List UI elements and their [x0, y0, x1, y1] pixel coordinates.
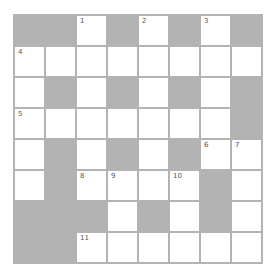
block-cell [170, 78, 199, 107]
answer-cell[interactable] [108, 233, 137, 262]
answer-cell[interactable] [201, 47, 230, 76]
answer-cell[interactable] [139, 171, 168, 200]
answer-cell[interactable] [15, 171, 44, 200]
answer-cell[interactable]: 6 [201, 140, 230, 169]
block-cell [108, 16, 137, 45]
block-cell [46, 140, 75, 169]
crossword-grid: 1234567891011 [13, 14, 263, 264]
answer-cell[interactable]: 7 [232, 140, 261, 169]
block-cell [46, 171, 75, 200]
block-cell [139, 202, 168, 231]
answer-cell[interactable] [201, 233, 230, 262]
answer-cell[interactable] [139, 233, 168, 262]
answer-cell[interactable] [232, 171, 261, 200]
answer-cell[interactable]: 11 [77, 233, 106, 262]
clue-number: 1 [80, 18, 84, 25]
answer-cell[interactable] [232, 233, 261, 262]
block-cell [15, 202, 44, 231]
answer-cell[interactable] [170, 202, 199, 231]
answer-cell[interactable] [77, 140, 106, 169]
clue-number: 2 [142, 18, 146, 25]
block-cell [46, 16, 75, 45]
clue-number: 8 [80, 173, 84, 180]
answer-cell[interactable] [170, 109, 199, 138]
answer-cell[interactable] [139, 109, 168, 138]
block-cell [170, 140, 199, 169]
clue-number: 9 [111, 173, 115, 180]
block-cell [108, 78, 137, 107]
block-cell [201, 171, 230, 200]
clue-number: 4 [18, 49, 22, 56]
answer-cell[interactable] [108, 47, 137, 76]
answer-cell[interactable] [15, 140, 44, 169]
answer-cell[interactable] [201, 109, 230, 138]
answer-cell[interactable] [108, 109, 137, 138]
answer-cell[interactable]: 10 [170, 171, 199, 200]
answer-cell[interactable] [46, 109, 75, 138]
answer-cell[interactable] [77, 47, 106, 76]
block-cell [108, 140, 137, 169]
answer-cell[interactable]: 1 [77, 16, 106, 45]
answer-cell[interactable]: 4 [15, 47, 44, 76]
block-cell [170, 16, 199, 45]
block-cell [232, 78, 261, 107]
answer-cell[interactable] [77, 109, 106, 138]
answer-cell[interactable] [108, 202, 137, 231]
answer-cell[interactable] [201, 78, 230, 107]
answer-cell[interactable] [232, 202, 261, 231]
answer-cell[interactable] [15, 78, 44, 107]
answer-cell[interactable]: 5 [15, 109, 44, 138]
answer-cell[interactable] [170, 233, 199, 262]
block-cell [15, 233, 44, 262]
block-cell [46, 202, 75, 231]
answer-cell[interactable] [46, 47, 75, 76]
answer-cell[interactable] [139, 47, 168, 76]
block-cell [232, 109, 261, 138]
clue-number: 11 [80, 235, 89, 242]
block-cell [232, 16, 261, 45]
block-cell [201, 202, 230, 231]
clue-number: 10 [173, 173, 182, 180]
answer-cell[interactable] [170, 47, 199, 76]
clue-number: 6 [204, 142, 208, 149]
clue-number: 3 [204, 18, 208, 25]
block-cell [77, 202, 106, 231]
block-cell [15, 16, 44, 45]
answer-cell[interactable]: 9 [108, 171, 137, 200]
block-cell [46, 233, 75, 262]
answer-cell[interactable]: 3 [201, 16, 230, 45]
clue-number: 7 [235, 142, 239, 149]
block-cell [46, 78, 75, 107]
answer-cell[interactable] [139, 140, 168, 169]
answer-cell[interactable]: 2 [139, 16, 168, 45]
answer-cell[interactable] [139, 78, 168, 107]
clue-number: 5 [18, 111, 22, 118]
answer-cell[interactable] [77, 78, 106, 107]
answer-cell[interactable]: 8 [77, 171, 106, 200]
answer-cell[interactable] [232, 47, 261, 76]
